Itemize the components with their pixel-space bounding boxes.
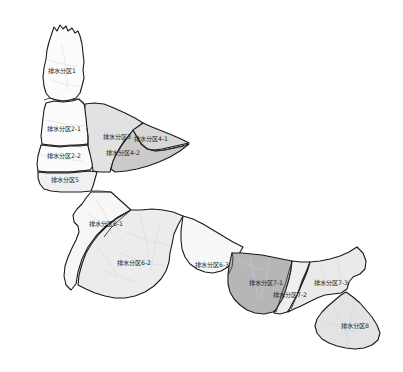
zone-排水分区2-2[interactable] bbox=[37, 145, 93, 172]
zone-排水分区1[interactable] bbox=[43, 25, 84, 101]
zone-排水分区5[interactable] bbox=[38, 171, 97, 192]
zone-排水分区2-1[interactable] bbox=[41, 99, 89, 146]
drainage-zone-map: 排水分区1排水分区2-1排水分区2-2排水分区3排水分区4-1排水分区4-2排水… bbox=[0, 0, 403, 372]
map-canvas bbox=[0, 0, 403, 372]
zone-fill-layer bbox=[37, 25, 380, 349]
